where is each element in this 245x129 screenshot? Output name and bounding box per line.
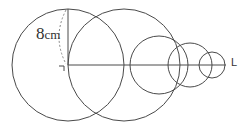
- right-angle-mark: [59, 66, 64, 71]
- line-label: L: [231, 56, 237, 68]
- circle-diagram: [0, 0, 245, 129]
- radius-label: 8cm: [36, 24, 60, 44]
